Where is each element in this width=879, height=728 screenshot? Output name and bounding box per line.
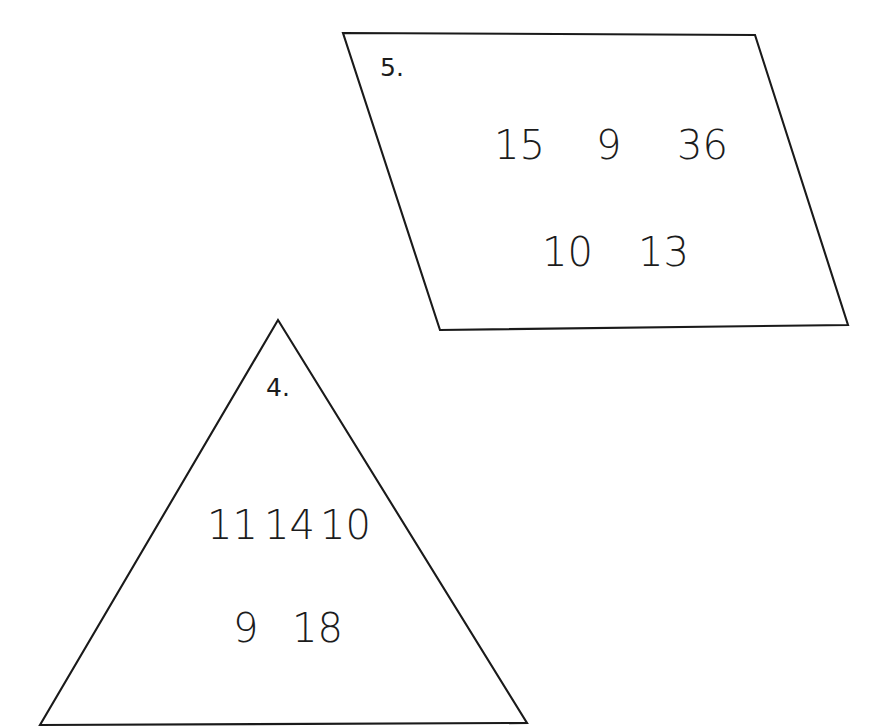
triangle-outline[interactable]	[40, 320, 527, 725]
worksheet-page: year.ocge 5. 15 9 36 10 13 4. 11 14 10 9…	[0, 0, 879, 728]
parallelogram-outline[interactable]	[343, 33, 848, 330]
shapes-canvas	[0, 0, 879, 728]
